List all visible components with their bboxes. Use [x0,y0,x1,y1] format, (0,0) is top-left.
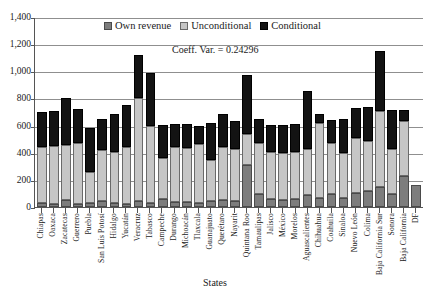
x-axis-label: Tabasco [146,213,154,239]
x-label-cell: Tamaulipas [253,213,265,275]
bar-column [145,18,156,207]
bar-segment-own-revenue [387,194,397,207]
x-axis-label: Querétaro [219,213,227,245]
bar-segment-own-revenue [110,203,120,207]
stacked-bar [146,73,156,207]
x-axis-label: Nuevo León [352,213,360,252]
x-axis-label: Chihuahua [315,213,323,247]
bar-segment-unconditional [61,145,71,199]
bar-segment-conditional [122,105,132,148]
bar-segment-conditional [110,114,120,152]
bar-column [314,18,325,207]
x-label-cell: Zacatecas [59,213,71,275]
bar-column [133,18,144,207]
x-label-cell: Chiapas [35,213,47,275]
bar-segment-unconditional [230,149,240,201]
x-label-cell: Quintana Roo [241,213,253,275]
x-axis-label: Tlaxcala [194,213,202,240]
stacked-bar [37,112,47,207]
x-label-cell: Baja California [398,213,410,275]
bar-segment-unconditional [351,138,361,192]
stacked-bar [134,55,144,207]
bar-column [109,18,120,207]
bar-segment-conditional [218,114,228,147]
bar-segment-conditional [363,107,373,141]
bar-segment-unconditional [266,152,276,199]
bar-segment-unconditional [49,146,59,204]
legend-item-own_revenue: Own revenue [104,20,171,31]
x-axis-label: Oaxaca [49,213,57,237]
bar-column [85,18,96,207]
stacked-bar [387,110,397,207]
x-axis-label: Puebla [86,213,94,235]
bar-column [266,18,277,207]
x-label-cell: Morelos [289,213,301,275]
bar-segment-own-revenue [399,176,409,207]
bar-segment-unconditional [303,149,313,195]
stacked-bar [327,120,337,207]
stacked-bar-chart: 02004006008001,0001,2001,400 ChiapasOaxa… [0,0,430,298]
stacked-bar [158,125,168,207]
bar-segment-conditional [49,111,59,146]
x-label-cell: Guerrero [71,213,83,275]
x-axis-label: Guanajuato [207,213,215,250]
square-swatch-icon [260,22,268,30]
bar-segment-conditional [85,128,95,171]
bar-segment-conditional [315,114,325,123]
x-label-cell: Puebla [83,213,95,275]
x-axis-label: Aguascalientes [303,213,311,261]
x-label-cell: Nayarit [229,213,241,275]
stacked-bar [85,128,95,207]
bar-segment-conditional [290,124,300,152]
x-axis-labels: ChiapasOaxacaZacatecasGuerreroPueblaSan … [34,213,423,275]
x-label-cell: Hidalgo [108,213,120,275]
bar-segment-unconditional [97,150,107,201]
bar-segment-own-revenue [146,203,156,207]
x-label-cell: Tabasco [144,213,156,275]
x-axis-label: Colima [364,213,372,236]
stacked-bar [315,114,325,207]
bar-segment-own-revenue [375,187,385,207]
bar-segment-conditional [61,98,71,146]
bar-column [326,18,337,207]
bar-column [60,18,71,207]
x-axis-label: Chiapas [37,213,45,239]
stacked-bar [303,91,313,207]
x-axis-label: Yucatán [122,213,130,239]
stacked-bar [411,185,421,207]
x-label-cell: Aguascalientes [301,213,313,275]
bar-segment-conditional [170,124,180,148]
bar-segment-own-revenue [254,194,264,207]
bar-column [398,18,409,207]
bar-segment-own-revenue [134,201,144,207]
x-label-cell: Baja California Sur [374,213,386,275]
x-axis-label: Jalisco [267,213,275,235]
bar-segment-own-revenue [170,202,180,207]
bar-segment-unconditional [158,158,168,199]
bar-segment-unconditional [242,134,252,165]
bar-segment-conditional [158,125,168,158]
y-tick-label: 600 [4,122,31,132]
bar-column [48,18,59,207]
bar-column [338,18,349,207]
bar-segment-own-revenue [327,194,337,207]
stacked-bar [49,111,59,207]
stacked-bar [182,124,192,207]
x-label-cell: Durango [168,213,180,275]
stacked-bar [218,114,228,207]
stacked-bar [194,126,204,207]
bar-segment-unconditional [254,143,264,195]
bar-segment-own-revenue [278,200,288,207]
square-swatch-icon [104,22,112,30]
x-label-cell: Nuevo León [349,213,361,275]
x-label-cell: Coahuila [325,213,337,275]
stacked-bar [73,109,83,207]
bar-column [121,18,132,207]
x-axis-label: Baja California [400,213,408,262]
x-label-cell: Campeche [156,213,168,275]
bar-segment-unconditional [73,143,83,204]
bar-segment-conditional [97,119,107,150]
bar-segment-unconditional [134,98,144,200]
bar-segment-conditional [134,55,144,98]
bar-segment-unconditional [387,149,397,194]
